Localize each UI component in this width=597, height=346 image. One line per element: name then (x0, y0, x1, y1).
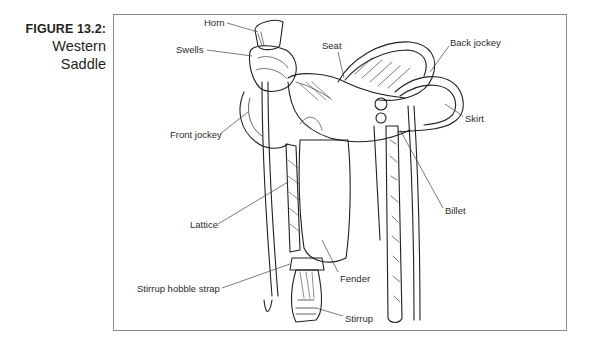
leader-front-jockey (220, 112, 248, 134)
leader-billet (400, 130, 443, 208)
label-back-jockey: Back jockey (450, 37, 501, 48)
leader-stirrup-hobble-strap (222, 264, 290, 288)
leader-back-jockey (430, 46, 449, 72)
leader-lattice (218, 182, 288, 224)
label-swells: Swells (176, 44, 203, 55)
fender-shape (299, 140, 350, 262)
swells-shape (249, 46, 296, 92)
label-front-jockey: Front jockey (170, 129, 222, 140)
leader-lines (207, 23, 463, 316)
stirrup-hobble-strap-shape (290, 258, 324, 270)
leader-fender (322, 240, 338, 272)
leader-swells (207, 50, 252, 56)
leader-skirt (445, 104, 463, 116)
western-saddle-illustration (0, 0, 597, 346)
billet-shape (386, 126, 402, 323)
label-horn: Horn (204, 17, 225, 28)
label-billet: Billet (445, 205, 466, 216)
leader-seat (338, 52, 344, 78)
label-stirrup-hobble-strap: Stirrup hobble strap (137, 283, 220, 294)
leader-horn (227, 23, 258, 32)
label-fender: Fender (340, 273, 370, 284)
label-lattice: Lattice (190, 219, 218, 230)
front-strap (264, 300, 272, 311)
horn-shape (255, 20, 283, 49)
label-stirrup: Stirrup (345, 313, 373, 324)
cantle-shape (338, 42, 435, 101)
front-jockey-shape (240, 92, 288, 148)
label-seat: Seat (322, 40, 342, 51)
label-skirt: Skirt (465, 113, 484, 124)
